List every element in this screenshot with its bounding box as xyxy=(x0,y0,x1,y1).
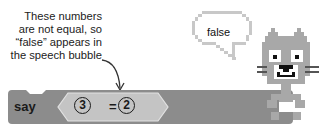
right-number-slot[interactable]: 2 xyxy=(118,97,135,114)
left-number-slot[interactable]: 3 xyxy=(74,97,91,114)
say-label: say xyxy=(14,99,36,114)
speech-bubble-icon xyxy=(192,8,258,74)
equals-operator: = xyxy=(109,99,117,114)
speech-bubble-text: false xyxy=(207,26,230,38)
say-block[interactable] xyxy=(8,90,293,124)
cat-sprite-icon xyxy=(257,28,321,132)
